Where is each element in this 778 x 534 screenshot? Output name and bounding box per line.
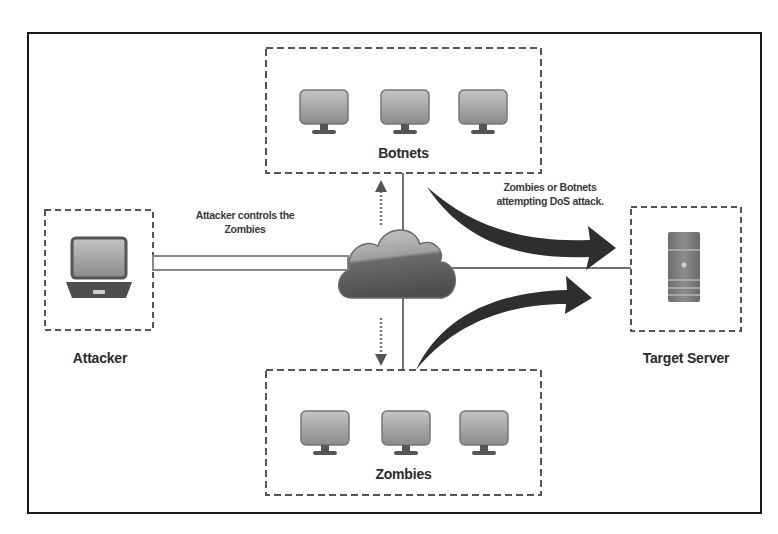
control-annotation-line2: Zombies bbox=[170, 222, 320, 236]
monitor-icon bbox=[460, 411, 508, 455]
target-server-label: Target Server bbox=[616, 350, 756, 366]
control-annotation: Attacker controls the Zombies bbox=[170, 208, 320, 236]
attack-annotation-line1: Zombies or Botnets bbox=[475, 180, 625, 194]
cloud-icon bbox=[339, 230, 456, 298]
server-icon bbox=[668, 232, 700, 302]
attacker-control-pipe bbox=[153, 256, 348, 270]
attack-annotation-line2: attempting DoS attack. bbox=[475, 194, 625, 208]
arrowhead-up-icon bbox=[375, 180, 387, 192]
monitor-icon bbox=[381, 90, 429, 134]
monitor-icon bbox=[301, 411, 349, 455]
target-group bbox=[631, 207, 741, 331]
monitor-icon bbox=[459, 90, 507, 134]
zombies-label: Zombies bbox=[266, 466, 541, 482]
attacker-group bbox=[45, 210, 153, 330]
laptop-icon bbox=[66, 238, 132, 298]
botnets-label: Botnets bbox=[266, 145, 541, 161]
monitor-icon bbox=[382, 411, 430, 455]
monitor-icon bbox=[300, 90, 348, 134]
arrowhead-down-icon bbox=[375, 354, 387, 366]
ddos-diagram bbox=[0, 0, 778, 534]
attack-annotation: Zombies or Botnets attempting DoS attack… bbox=[475, 180, 625, 208]
control-annotation-line1: Attacker controls the bbox=[170, 208, 320, 222]
attacker-label: Attacker bbox=[40, 350, 160, 366]
